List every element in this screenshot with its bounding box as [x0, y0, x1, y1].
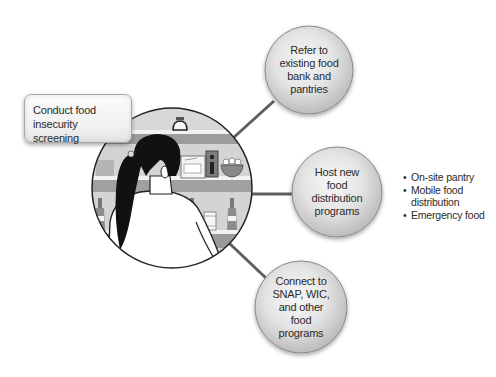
list-item: Mobile food distribution	[403, 184, 491, 209]
egg-bowl-icon	[221, 158, 243, 177]
bubble-host-text-wrap: Host new food distribution programs	[292, 147, 382, 237]
bubble-connect-label: Connect to SNAP, WIC, and other food pro…	[272, 275, 329, 340]
food-box-icon	[181, 156, 205, 178]
host-program-details-list: On-site pantry Mobile food distribution …	[403, 171, 491, 221]
bubble-refer-text-wrap: Refer to existing food bank and pantries	[265, 26, 353, 114]
diagram-canvas: Conduct food insecurity screening Refer …	[0, 0, 496, 377]
screening-label-box: Conduct food insecurity screening	[24, 94, 132, 143]
bubble-host-label: Host new food distribution programs	[312, 166, 363, 218]
list-item: Emergency food	[403, 209, 491, 222]
screening-label: Conduct food insecurity screening	[33, 104, 96, 144]
bubble-refer-label: Refer to existing food bank and pantries	[279, 44, 338, 96]
list-item: On-site pantry	[403, 171, 491, 184]
bubble-connect-text-wrap: Connect to SNAP, WIC, and other food pro…	[255, 261, 347, 353]
canister-icon	[206, 151, 218, 177]
